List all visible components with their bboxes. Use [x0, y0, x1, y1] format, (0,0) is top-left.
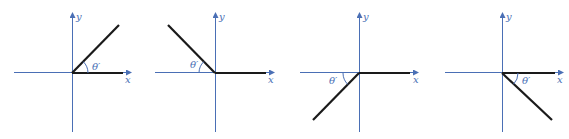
y-axis-label: y: [505, 11, 512, 22]
theta-prime-label: θ′: [190, 59, 199, 70]
x-axis-label: x: [125, 74, 131, 85]
angle-arc: [83, 62, 88, 73]
panel-quadrant-1: θ′ x y: [14, 11, 131, 132]
angle-arc: [514, 73, 518, 84]
y-axis-label: y: [362, 11, 369, 22]
theta-prime-label: θ′: [329, 75, 338, 86]
panel-quadrant-3: θ′ x y: [300, 11, 419, 132]
x-axis-label: x: [413, 74, 419, 85]
y-axis-label: y: [75, 11, 82, 22]
x-axis-label: x: [557, 74, 563, 85]
angle-arc: [343, 73, 348, 84]
panel-quadrant-4: θ′ x y: [445, 11, 563, 132]
y-axis-label: y: [218, 11, 225, 22]
panel-quadrant-2: θ′ x y: [155, 11, 274, 132]
angle-arc: [199, 62, 204, 73]
x-axis-label: x: [268, 74, 274, 85]
reference-angle-figure: θ′ x y θ′ x y θ′ x y θ′ x y: [0, 0, 569, 139]
theta-prime-label: θ′: [92, 61, 101, 72]
theta-prime-label: θ′: [522, 75, 531, 86]
